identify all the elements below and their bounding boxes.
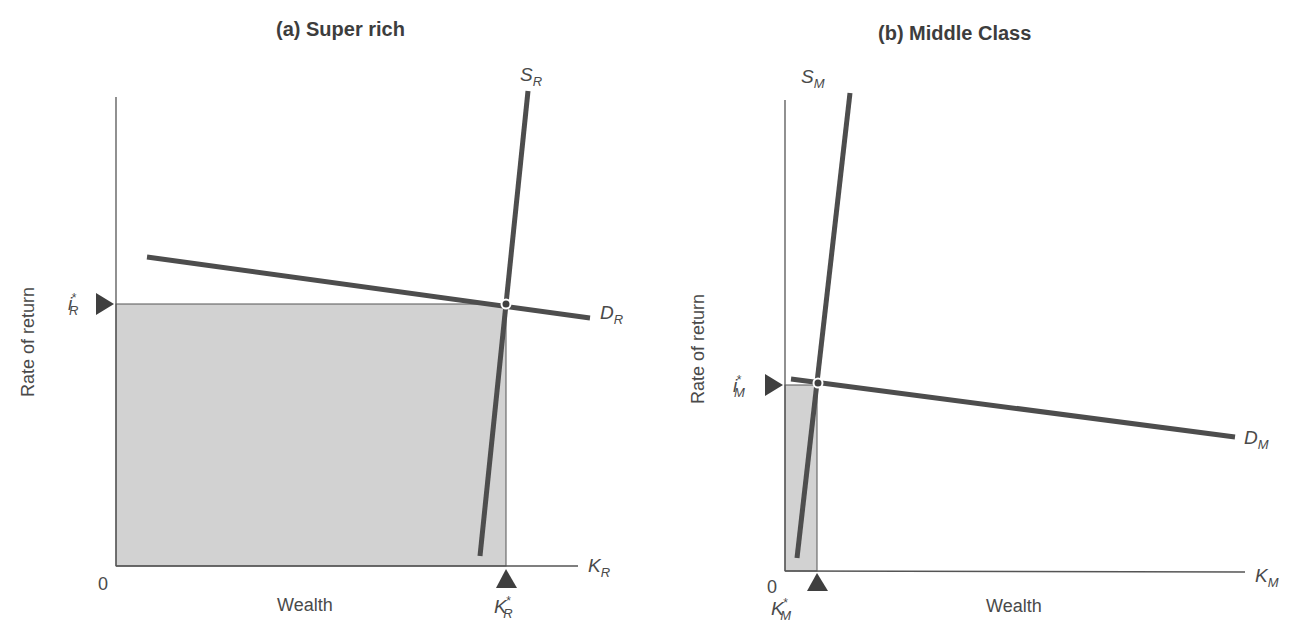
quantity-marker-triangle-middle [807, 573, 828, 591]
supply-label-middle: SM [801, 66, 825, 91]
equilibrium-quantity-label-middle: K*M [771, 596, 791, 623]
panel-title-middle-class: (b) Middle Class [878, 22, 1031, 45]
panel-middle-class: (b) Middle Class Rate of return Wealth 0… [0, 0, 1299, 638]
equilibrium-point-middle [814, 379, 823, 388]
demand-label-middle: DM [1244, 427, 1269, 452]
supply-curve-middle [797, 93, 850, 558]
rate-marker-triangle-middle [765, 374, 783, 396]
origin-label-middle: 0 [767, 577, 777, 598]
chart-middle-class-plot [0, 0, 1299, 638]
x-axis-middle [785, 571, 1245, 572]
y-axis-label-middle: Rate of return [688, 294, 709, 404]
x-axis-label-middle: Wealth [986, 596, 1042, 617]
x-axis-end-label-middle: KM [1255, 565, 1279, 590]
demand-curve-middle [791, 379, 1235, 437]
equilibrium-rate-label-middle: i*M [733, 373, 745, 400]
